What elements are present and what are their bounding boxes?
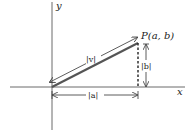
x-axis-label: x (177, 86, 183, 97)
vertical-component-label: |b| (141, 62, 152, 71)
point-p-label: P(a, b) (140, 30, 174, 41)
vector-diagram: x y |v| P(a, b) |b| |a| (0, 0, 192, 136)
y-axis-label: y (55, 0, 62, 11)
vector-v (52, 43, 138, 87)
horizontal-component-label: |a| (88, 91, 98, 100)
diagram-canvas: x y |v| P(a, b) |b| |a| (0, 0, 192, 136)
vector-magnitude-label: |v| (86, 55, 96, 64)
